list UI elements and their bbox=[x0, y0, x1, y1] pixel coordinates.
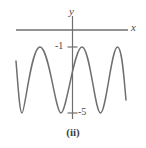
y-axis-label: y bbox=[69, 6, 74, 17]
x-axis-label: x bbox=[131, 22, 136, 33]
cosine-curve bbox=[16, 47, 126, 113]
figure-container: y x -1 -5 (ii) bbox=[0, 0, 146, 148]
figure-caption: (ii) bbox=[0, 126, 146, 138]
tick-label-minus-five: -5 bbox=[78, 107, 86, 117]
tick-label-minus-one: -1 bbox=[55, 41, 63, 51]
